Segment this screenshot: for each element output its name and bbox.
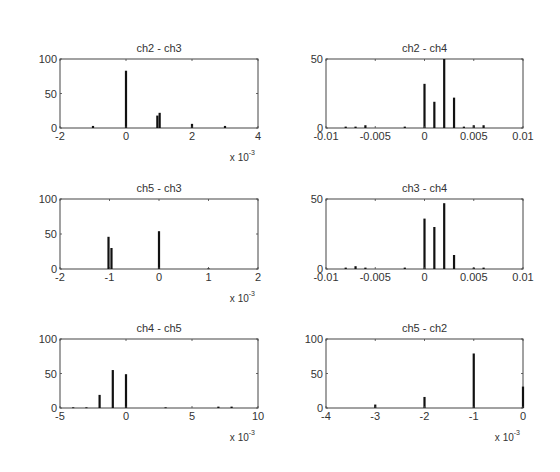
histogram-figure: ch2 - ch3-2024050100x 10-3ch2 - ch4-0.01… xyxy=(0,0,560,472)
histogram-bar xyxy=(453,98,455,128)
histogram-bar xyxy=(159,113,161,128)
histogram-bar xyxy=(99,395,101,408)
x-tick-label: 0 xyxy=(123,410,129,422)
x-tick-label: -2 xyxy=(420,410,430,422)
histogram-bar xyxy=(345,127,347,128)
y-tick-label: 50 xyxy=(45,368,57,380)
x-tick-label: 0 xyxy=(421,271,427,283)
histogram-bar xyxy=(112,370,114,408)
histogram-bar xyxy=(423,84,425,128)
x-tick-label: 4 xyxy=(255,130,261,142)
subplot-title: ch3 - ch4 xyxy=(402,182,447,194)
histogram-bar xyxy=(231,407,233,408)
histogram-bar xyxy=(110,248,112,269)
histogram-bar xyxy=(483,268,485,269)
x-tick-label: 0 xyxy=(520,410,526,422)
y-tick-label: 50 xyxy=(311,53,323,65)
y-tick-label: 0 xyxy=(317,263,323,275)
histogram-bar xyxy=(453,255,455,269)
x-tick-label: -0.005 xyxy=(360,130,391,142)
subplot-3: ch5 - ch3-2-1012050100x 10-3 xyxy=(39,182,261,304)
histogram-bar xyxy=(364,125,366,128)
y-tick-label: 0 xyxy=(317,402,323,414)
subplot-2: ch2 - ch4-0.01-0.00500.0050.01050 xyxy=(311,42,534,142)
subplot-title: ch5 - ch3 xyxy=(136,182,181,194)
y-tick-label: 50 xyxy=(45,88,57,100)
subplot-1: ch2 - ch3-2024050100x 10-3 xyxy=(39,42,261,163)
axes-box xyxy=(60,339,258,408)
histogram-bar xyxy=(473,353,475,408)
x-tick-label: -3 xyxy=(370,410,380,422)
histogram-bar xyxy=(85,407,87,408)
y-tick-label: 50 xyxy=(45,228,57,240)
x-tick-label: 0.005 xyxy=(460,130,488,142)
histogram-bar xyxy=(345,268,347,269)
histogram-bar xyxy=(158,231,160,269)
y-tick-label: 50 xyxy=(311,193,323,205)
histogram-bar xyxy=(433,227,435,269)
histogram-bar xyxy=(165,407,167,408)
x-tick-label: 0 xyxy=(421,130,427,142)
x-tick-label: 2 xyxy=(189,130,195,142)
subplot-title: ch2 - ch3 xyxy=(136,42,181,54)
x-axis-multiplier: x 10-3 xyxy=(230,429,255,443)
x-tick-label: 10 xyxy=(252,410,264,422)
y-tick-label: 0 xyxy=(317,122,323,134)
x-tick-label: 5 xyxy=(189,410,195,422)
histogram-bar xyxy=(423,219,425,269)
histogram-bar xyxy=(364,268,366,269)
subplot-title: ch4 - ch5 xyxy=(136,322,181,334)
histogram-bar xyxy=(125,374,127,408)
y-tick-label: 0 xyxy=(51,263,57,275)
y-tick-label: 100 xyxy=(39,53,57,65)
histogram-bar xyxy=(217,407,219,408)
x-axis-multiplier: x 10-3 xyxy=(230,290,255,304)
histogram-bar xyxy=(483,125,485,128)
x-tick-label: 0 xyxy=(156,271,162,283)
x-tick-label: 0 xyxy=(123,130,129,142)
histogram-bar xyxy=(522,387,524,408)
x-tick-label: 0.005 xyxy=(460,271,488,283)
histogram-bar xyxy=(404,127,406,128)
x-tick-label: -1 xyxy=(469,410,479,422)
y-tick-label: 0 xyxy=(51,402,57,414)
x-tick-label: -1 xyxy=(105,271,115,283)
histogram-bar xyxy=(224,126,226,128)
x-tick-label: 2 xyxy=(255,271,261,283)
x-axis-multiplier: x 10-3 xyxy=(495,429,520,443)
x-axis-multiplier: x 10-3 xyxy=(230,149,255,163)
y-tick-label: 100 xyxy=(305,333,323,345)
x-tick-label: 0.01 xyxy=(512,130,533,142)
subplot-6: ch5 - ch2-4-3-2-10050100x 10-3 xyxy=(305,322,526,443)
histogram-bar xyxy=(443,59,445,128)
y-tick-label: 100 xyxy=(39,333,57,345)
histogram-bar xyxy=(404,268,406,269)
subplot-4: ch3 - ch4-0.01-0.00500.0050.01050 xyxy=(311,182,534,283)
y-tick-label: 0 xyxy=(51,122,57,134)
histogram-bar xyxy=(125,71,127,128)
histogram-bar xyxy=(72,407,74,408)
histogram-bar xyxy=(156,116,158,128)
histogram-bar xyxy=(107,237,109,269)
subplot-title: ch2 - ch4 xyxy=(402,42,447,54)
histogram-bar xyxy=(354,266,356,269)
histogram-bar xyxy=(354,127,356,128)
subplot-grid: ch2 - ch3-2024050100x 10-3ch2 - ch4-0.01… xyxy=(0,0,560,472)
histogram-bar xyxy=(443,203,445,269)
histogram-bar xyxy=(92,126,94,128)
subplot-title: ch5 - ch2 xyxy=(402,322,447,334)
histogram-bar xyxy=(463,127,465,128)
y-tick-label: 100 xyxy=(39,193,57,205)
y-tick-label: 50 xyxy=(311,368,323,380)
x-tick-label: 0.01 xyxy=(512,271,533,283)
histogram-bar xyxy=(433,102,435,128)
x-tick-label: 1 xyxy=(205,271,211,283)
subplot-5: ch4 - ch5-50510050100x 10-3 xyxy=(39,322,264,443)
x-tick-label: -0.005 xyxy=(360,271,391,283)
